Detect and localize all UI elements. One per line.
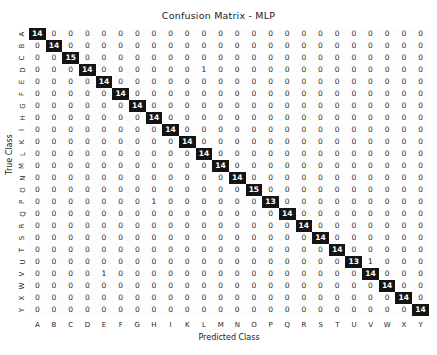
matrix-cell: 0 [229,220,246,232]
matrix-cell: 0 [312,52,329,64]
matrix-cell: 0 [329,304,346,316]
matrix-cell: 0 [46,172,63,184]
matrix-cell: 0 [296,184,313,196]
matrix-cell: 0 [212,244,229,256]
matrix-cell: 0 [46,112,63,124]
matrix-cell: 0 [146,88,163,100]
matrix-cell: 0 [29,268,46,280]
matrix-cell: 0 [296,136,313,148]
matrix-cell: 0 [246,28,263,40]
matrix-cell: 0 [62,40,79,52]
matrix-cell: 14 [46,40,63,52]
matrix-cell: 0 [112,148,129,160]
matrix-cell: 0 [146,244,163,256]
matrix-cell: 0 [395,196,412,208]
matrix-cell: 1 [196,64,213,76]
matrix-row: 0000140000000000000000000 [29,76,429,88]
matrix-cell: 0 [246,100,263,112]
matrix-cell: 0 [196,208,213,220]
matrix-cell: 0 [296,268,313,280]
matrix-cell: 0 [162,256,179,268]
matrix-cell: 0 [212,64,229,76]
matrix-cell: 0 [395,268,412,280]
x-axis-tick: U [346,319,363,331]
matrix-cell: 0 [296,148,313,160]
matrix-cell: 0 [262,112,279,124]
matrix-cell: 13 [345,256,362,268]
matrix-cell: 0 [312,64,329,76]
matrix-cell: 0 [46,52,63,64]
matrix-cell: 0 [329,208,346,220]
matrix-cell: 0 [345,292,362,304]
matrix-row: 0000000000000150000000000 [29,184,429,196]
matrix-cell: 0 [212,232,229,244]
matrix-cell: 0 [246,40,263,52]
matrix-cell: 0 [262,88,279,100]
matrix-cell: 0 [246,208,263,220]
matrix-cell: 0 [79,268,96,280]
matrix-cell: 0 [246,256,263,268]
matrix-cell: 0 [196,232,213,244]
matrix-cell: 0 [379,304,396,316]
matrix-cell: 0 [146,208,163,220]
matrix-cell: 0 [196,256,213,268]
matrix-cell: 0 [96,172,113,184]
matrix-cell: 0 [279,232,296,244]
matrix-cell: 0 [29,256,46,268]
x-axis-tick: H [146,319,163,331]
matrix-cell: 0 [79,124,96,136]
x-axis-tick: Q [279,319,296,331]
matrix-cell: 0 [379,196,396,208]
matrix-cell: 0 [112,124,129,136]
matrix-cell: 0 [412,172,429,184]
matrix-cell: 0 [262,148,279,160]
matrix-cell: 14 [329,244,346,256]
matrix-cell: 0 [362,124,379,136]
matrix-cell: 0 [395,88,412,100]
matrix-cell: 0 [29,220,46,232]
matrix-cell: 0 [29,172,46,184]
matrix-cell: 14 [112,88,129,100]
x-axis-tick: M [212,319,229,331]
matrix-cell: 0 [179,232,196,244]
matrix-cell: 0 [212,76,229,88]
y-axis-tick: C [16,52,29,64]
matrix-cell: 0 [279,160,296,172]
matrix-cell: 0 [296,100,313,112]
matrix-cell: 0 [412,268,429,280]
matrix-cell: 0 [262,76,279,88]
matrix-cell: 0 [146,304,163,316]
matrix-cell: 0 [46,28,63,40]
y-axis-tick: K [16,136,29,148]
matrix-cell: 0 [229,196,246,208]
matrix-cell: 0 [96,244,113,256]
matrix-cell: 0 [46,256,63,268]
matrix-cell: 0 [162,28,179,40]
matrix-cell: 0 [162,148,179,160]
matrix-cell: 0 [62,136,79,148]
matrix-cell: 0 [345,52,362,64]
matrix-cell: 0 [246,268,263,280]
matrix-row: 0000000000000000000000140 [29,292,429,304]
matrix-cell: 0 [46,220,63,232]
matrix-cell: 0 [379,64,396,76]
matrix-cell: 0 [129,184,146,196]
matrix-cell: 0 [229,244,246,256]
matrix-cell: 0 [246,160,263,172]
matrix-cell: 0 [112,184,129,196]
matrix-cell: 0 [395,280,412,292]
y-axis-tick: R [16,220,29,232]
matrix-cell: 0 [212,268,229,280]
matrix-cell: 0 [395,244,412,256]
matrix-cell: 0 [246,64,263,76]
matrix-cell: 0 [279,76,296,88]
matrix-cell: 0 [196,88,213,100]
matrix-cell: 0 [146,136,163,148]
y-axis-tick-text: V [16,272,28,277]
matrix-row: 0000000000000001400000000 [29,208,429,220]
matrix-row: 0000000000001400000000000 [29,172,429,184]
matrix-cell: 0 [379,256,396,268]
matrix-cell: 0 [395,232,412,244]
matrix-cell: 0 [279,268,296,280]
matrix-cell: 0 [179,184,196,196]
